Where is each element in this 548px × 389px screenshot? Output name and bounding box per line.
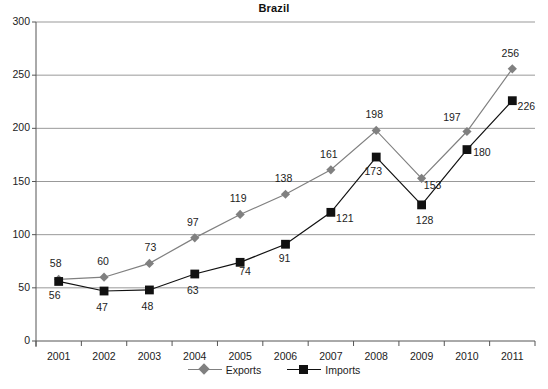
- y-axis-tick-label-150: 150: [0, 176, 30, 187]
- legend-label-imports: Imports: [325, 364, 360, 376]
- data-label-exports-2002: 60: [91, 256, 115, 267]
- y-axis-tick-label-300: 300: [0, 16, 30, 27]
- marker-imports-2001[interactable]: [54, 277, 63, 286]
- x-axis-tick-label-2005: 2005: [218, 351, 262, 362]
- y-axis-tick-label-50: 50: [0, 282, 30, 293]
- data-label-imports-2010: 180: [470, 147, 494, 158]
- marker-imports-2003[interactable]: [145, 286, 154, 295]
- data-label-imports-2011: 226: [514, 101, 538, 112]
- data-label-imports-2008: 173: [361, 166, 385, 177]
- x-axis-tick-label-2004: 2004: [173, 351, 217, 362]
- y-axis-tick-label-250: 250: [0, 69, 30, 80]
- x-axis-tick-label-2010: 2010: [445, 351, 489, 362]
- marker-imports-2002[interactable]: [100, 287, 109, 296]
- x-axis-tick-label-2001: 2001: [37, 351, 81, 362]
- x-axis-tick-label-2003: 2003: [127, 351, 171, 362]
- marker-imports-2008[interactable]: [372, 153, 381, 162]
- data-label-exports-2009: 153: [421, 180, 445, 191]
- imports-marker-icon: [287, 364, 321, 376]
- marker-imports-2004[interactable]: [190, 270, 199, 279]
- data-label-exports-2005: 119: [226, 193, 250, 204]
- x-axis-tick-label-2008: 2008: [354, 351, 398, 362]
- data-label-imports-2009: 128: [413, 215, 437, 226]
- data-label-imports-2006: 91: [273, 253, 297, 264]
- legend-label-exports: Exports: [226, 364, 262, 376]
- data-label-imports-2002: 47: [90, 302, 114, 313]
- y-axis-tick-label-0: 0: [0, 335, 30, 346]
- data-label-exports-2007: 161: [317, 149, 341, 160]
- marker-exports-2005[interactable]: [236, 210, 245, 219]
- data-label-imports-2004: 63: [181, 285, 205, 296]
- marker-exports-2003[interactable]: [145, 259, 154, 268]
- y-axis-tick-label-200: 200: [0, 122, 30, 133]
- marker-exports-2002[interactable]: [99, 273, 108, 282]
- data-label-exports-2010: 197: [440, 112, 464, 123]
- data-label-exports-2008: 198: [362, 109, 386, 120]
- data-label-exports-2006: 138: [272, 173, 296, 184]
- legend-item-imports[interactable]: Imports: [287, 364, 360, 376]
- x-axis-tick-label-2006: 2006: [264, 351, 308, 362]
- x-axis-tick-label-2002: 2002: [82, 351, 126, 362]
- data-label-exports-2003: 73: [138, 242, 162, 253]
- y-axis-tick-label-100: 100: [0, 229, 30, 240]
- data-label-exports-2001: 58: [44, 258, 68, 269]
- data-label-imports-2007: 121: [333, 213, 357, 224]
- marker-imports-2009[interactable]: [417, 200, 426, 209]
- exports-marker-icon: [188, 364, 222, 376]
- chart-container: Brazil 050100150200250300200120022003200…: [0, 0, 548, 389]
- marker-exports-2011[interactable]: [508, 64, 517, 73]
- x-axis-tick-label-2011: 2011: [490, 351, 534, 362]
- data-label-imports-2001: 56: [43, 290, 67, 301]
- chart-legend: Exports Imports: [0, 364, 548, 376]
- data-label-imports-2003: 48: [135, 301, 159, 312]
- plot-area: [0, 0, 548, 389]
- legend-item-exports[interactable]: Exports: [188, 364, 262, 376]
- data-label-exports-2011: 256: [498, 48, 522, 59]
- x-axis-tick-label-2007: 2007: [309, 351, 353, 362]
- marker-exports-2006[interactable]: [281, 190, 290, 199]
- data-label-exports-2004: 97: [181, 217, 205, 228]
- x-axis-tick-label-2009: 2009: [400, 351, 444, 362]
- marker-imports-2006[interactable]: [281, 240, 290, 249]
- data-label-imports-2005: 74: [233, 266, 257, 277]
